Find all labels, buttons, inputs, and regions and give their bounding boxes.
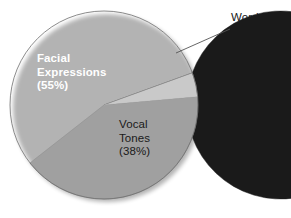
slice-label-words: Words (7%) — [231, 11, 265, 38]
slice-label-facial-line1: Facial — [37, 52, 107, 66]
slice-label-facial-percent: (55%) — [37, 79, 107, 93]
slice-label-words-line1: Words — [231, 11, 265, 25]
slice-label-facial-expressions: Facial Expressions (55%) — [37, 52, 107, 93]
slice-label-vocal-line2: Tones — [119, 132, 150, 146]
slice-label-facial-line2: Expressions — [37, 66, 107, 80]
slice-label-words-percent: (7%) — [231, 25, 265, 39]
slice-label-vocal-percent: (38%) — [119, 145, 150, 159]
slice-label-vocal-tones: Vocal Tones (38%) — [119, 118, 150, 159]
slice-label-vocal-line1: Vocal — [119, 118, 150, 132]
pie-chart-figure: Facial Expressions (55%) Vocal Tones (38… — [0, 0, 291, 218]
